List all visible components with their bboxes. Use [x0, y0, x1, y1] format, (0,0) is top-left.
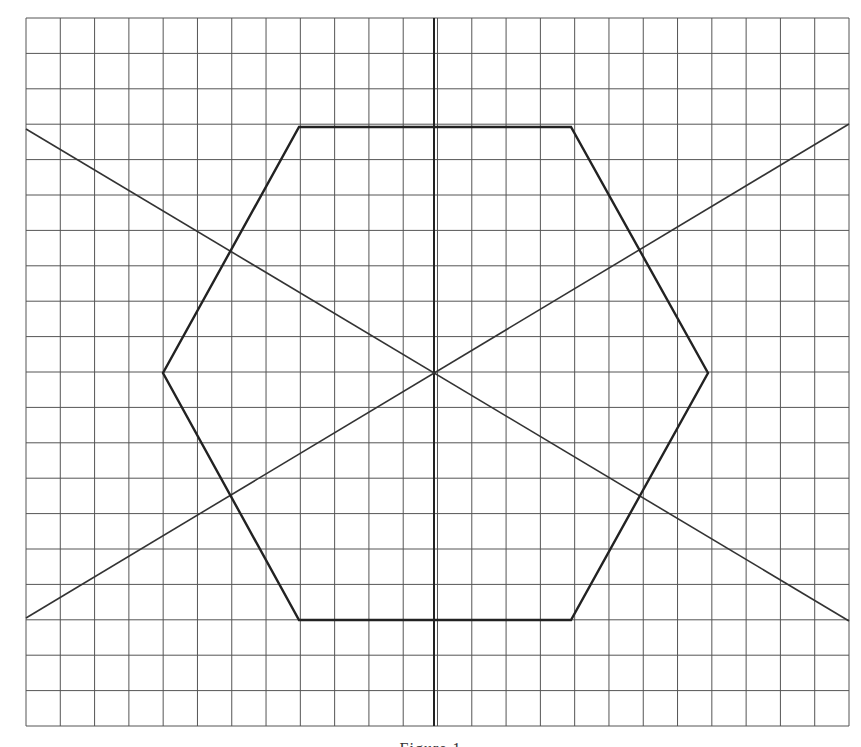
hexagon-grid-diagram [0, 0, 861, 747]
figure-caption: Figure 1 [0, 738, 861, 747]
